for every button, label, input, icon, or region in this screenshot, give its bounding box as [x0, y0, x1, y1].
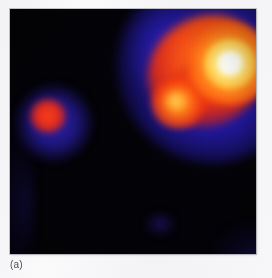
primary-source-core-yellow [204, 39, 256, 89]
faint-feature-corner [214, 225, 256, 254]
companion-source-halo [16, 85, 92, 161]
scan-grain-overlay [10, 9, 256, 254]
companion-source-core [30, 99, 66, 133]
primary-source-core-orange [188, 23, 256, 105]
primary-source-peak [217, 51, 243, 76]
primary-source-bridge [150, 42, 254, 129]
figure-panel: (a) [0, 0, 272, 278]
primary-source-halo-lower [141, 63, 256, 163]
faint-edge-glow [10, 129, 34, 254]
panel-label: (a) [10, 259, 23, 271]
secondary-knot-core [165, 91, 187, 111]
primary-source-body [127, 9, 256, 149]
secondary-knot-outer [151, 77, 205, 129]
vignette-overlay [10, 9, 256, 254]
primary-source-halo-lobe [116, 9, 235, 117]
false-color-image[interactable] [10, 9, 256, 254]
faint-feature-lower [144, 211, 176, 237]
primary-source-halo-outer [84, 9, 256, 195]
